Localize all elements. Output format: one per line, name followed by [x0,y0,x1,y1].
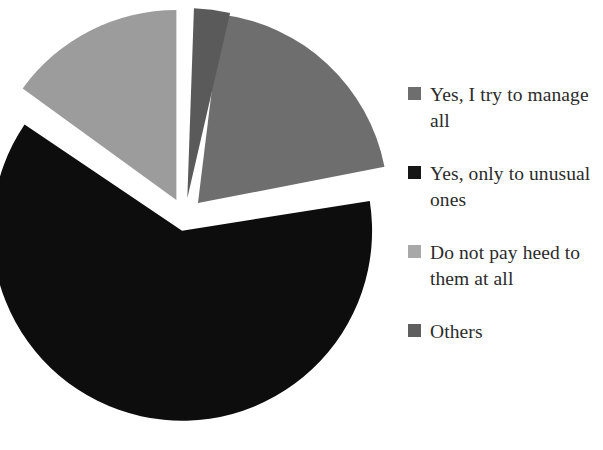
pie-slices-group [0,8,384,420]
pie-chart-canvas [0,0,400,450]
pie-slice[interactable] [198,15,385,204]
legend-swatch-icon [408,324,421,337]
pie-chart-figure: Yes, I try to manage all Yes, only to un… [0,0,603,450]
legend-item-yes-unusual-ones[interactable]: Yes, only to unusual ones [408,161,603,213]
legend-swatch-icon [408,166,421,179]
chart-legend: Yes, I try to manage all Yes, only to un… [408,82,603,372]
legend-item-label: Yes, I try to manage all [430,82,603,134]
legend-item-label: Do not pay heed to them at all [430,240,603,292]
legend-item-label: Others [430,319,483,345]
legend-item-do-not-pay-heed[interactable]: Do not pay heed to them at all [408,240,603,292]
legend-item-yes-manage-all[interactable]: Yes, I try to manage all [408,82,603,134]
legend-swatch-icon [408,245,421,258]
legend-item-others[interactable]: Others [408,319,603,345]
legend-item-label: Yes, only to unusual ones [430,161,603,213]
legend-swatch-icon [408,87,421,100]
